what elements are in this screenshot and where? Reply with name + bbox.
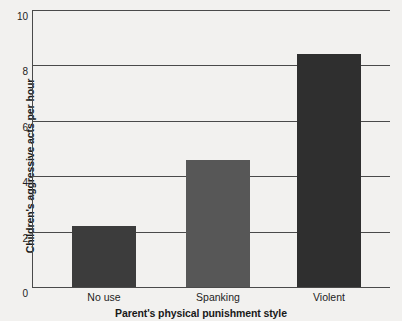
bar-no-use bbox=[72, 226, 136, 287]
gridline-0 bbox=[32, 287, 390, 288]
plot-area: 1086420 bbox=[32, 10, 390, 287]
x-tick-label: Spanking bbox=[166, 291, 270, 303]
y-tick-label: 4 bbox=[4, 177, 28, 188]
y-tick-label: 0 bbox=[4, 288, 28, 299]
y-tick-label: 8 bbox=[4, 66, 28, 77]
x-axis-title: Parent's physical punishment style bbox=[0, 307, 402, 319]
y-tick-label: 6 bbox=[4, 122, 28, 133]
gridline-10 bbox=[32, 10, 390, 11]
bar-violent bbox=[297, 54, 361, 287]
y-tick-label: 2 bbox=[4, 233, 28, 244]
y-axis-line bbox=[32, 10, 33, 287]
y-tick-label: 10 bbox=[4, 11, 28, 22]
x-tick-label: No use bbox=[52, 291, 156, 303]
bar-spanking bbox=[186, 160, 250, 287]
bar-chart: Children's aggressive acts per hour 1086… bbox=[0, 0, 402, 321]
x-tick-label: Violent bbox=[277, 291, 381, 303]
